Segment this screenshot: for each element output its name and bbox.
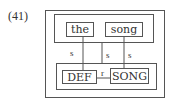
node-the: the: [66, 22, 94, 37]
node-def-label: DEF: [67, 71, 91, 84]
node-song-upper-label: SONG: [112, 70, 147, 83]
link-label-r: r: [101, 68, 104, 78]
link-label-s-left: s: [70, 48, 74, 58]
node-def: DEF: [62, 70, 97, 84]
node-song-upper: SONG: [110, 68, 149, 84]
node-song: song: [105, 22, 143, 37]
connector-lines: [0, 0, 173, 103]
link-label-s-middle: s: [106, 50, 110, 60]
link-label-s-right: s: [128, 50, 132, 60]
node-song-label: song: [111, 23, 137, 36]
node-the-label: the: [71, 23, 89, 36]
